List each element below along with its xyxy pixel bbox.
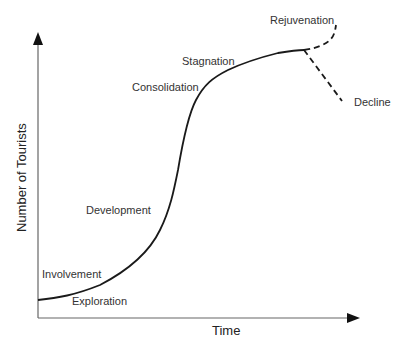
stage-label-exploration: Exploration [72, 296, 127, 307]
stage-label-development: Development [86, 205, 151, 216]
stage-label-rejuvenation: Rejuvenation [270, 15, 334, 26]
stage-label-involvement: Involvement [42, 269, 101, 280]
stage-label-decline: Decline [354, 97, 391, 108]
rejuvenation-branch [304, 25, 336, 50]
stage-label-consolidation: Consolidation [132, 82, 199, 93]
lifecycle-diagram [0, 0, 414, 352]
y-axis-label: Number of Tourists [15, 123, 28, 232]
x-axis-arrow-icon [347, 313, 360, 323]
stage-label-stagnation: Stagnation [182, 56, 235, 67]
x-axis-label: Time [212, 324, 240, 337]
y-axis-arrow-icon [33, 32, 43, 45]
decline-branch [304, 50, 342, 101]
